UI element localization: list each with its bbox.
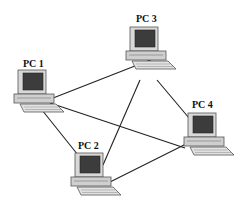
pc1-computer-icon [14, 70, 64, 112]
pc2-label: PC 2 [78, 140, 99, 151]
pc2-computer-icon [71, 153, 121, 195]
pc3-computer-icon [126, 27, 176, 69]
pc4-computer-icon [184, 113, 234, 155]
pc3-label: PC 3 [136, 13, 157, 24]
pc4-label: PC 4 [192, 99, 213, 110]
pc1-label: PC 1 [23, 58, 44, 69]
connection-lines [42, 55, 189, 182]
